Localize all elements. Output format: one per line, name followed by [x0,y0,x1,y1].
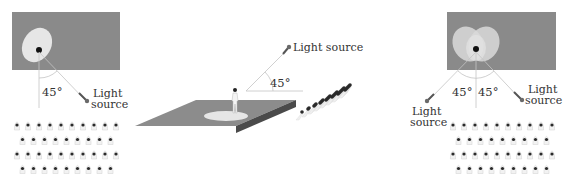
left-lamp-icon [79,93,89,103]
right-right-lamp-icon [514,92,524,102]
right-audience [450,122,554,174]
right-right-light-line2: source [525,94,562,107]
left-angle-arc [39,71,57,78]
center-panel: 45° Light source [135,41,363,133]
left-audience [14,122,118,174]
right-angle-left-label: 45° [452,85,472,99]
left-panel: 45° Light source [12,12,128,174]
left-angle-label: 45° [42,85,62,99]
center-audience [296,83,352,120]
center-light-label: Light source [293,41,363,54]
stage-spotlight [204,111,248,121]
right-performer-dot [473,46,479,52]
right-panel: 45° 45° Light source Light source [410,12,562,174]
lighting-diagram: 45° Light source 45° Light source [0,0,569,189]
center-lamp-icon [283,45,291,54]
left-light-label-line2: source [91,98,128,111]
right-left-light-line2: source [410,116,447,129]
center-angle-label: 45° [270,76,290,90]
right-left-lamp-icon [425,94,434,103]
right-angle-right-label: 45° [478,85,498,99]
